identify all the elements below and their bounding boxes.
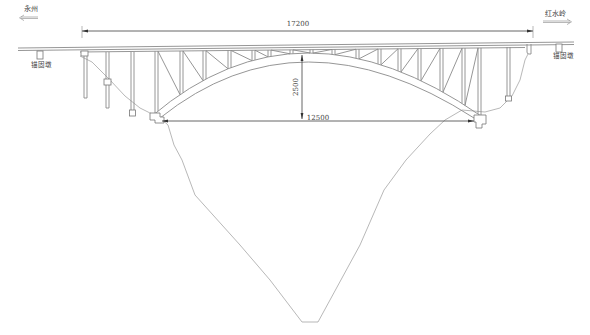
bridge-elevation-drawing: 永州 红水岭 17200 锚固墩 锚固墩 xyxy=(0,0,590,335)
right-anchor-pier-label: 锚固墩 xyxy=(553,51,574,60)
truss-diagonal xyxy=(421,48,440,80)
truss-diagonal xyxy=(206,51,228,69)
truss-diagonal xyxy=(465,48,478,105)
truss-diagonal xyxy=(335,49,356,54)
arch-span-label: 12500 xyxy=(307,114,329,122)
ground-profile xyxy=(80,54,528,322)
arch-span-dimension: 12500 xyxy=(162,114,474,122)
truss-diagonal xyxy=(293,50,310,53)
truss-diagonal xyxy=(231,50,252,60)
left-destination-label: 永州 xyxy=(24,4,38,13)
right-arch-footing xyxy=(474,115,486,128)
truss-diagonal xyxy=(271,50,290,54)
left-anchor-pier: 锚固墩 xyxy=(31,51,52,69)
truss-diagonal xyxy=(183,51,203,81)
right-anchor-pier: 锚固墩 xyxy=(553,44,574,60)
truss-diagonal xyxy=(443,48,462,92)
truss-diagonal xyxy=(255,50,268,57)
left-arch-footing xyxy=(150,113,164,123)
left-anchor-pier-label: 锚固墩 xyxy=(31,60,52,69)
arch-rise-dimension: 2500 xyxy=(292,55,303,119)
left-abutment-cap xyxy=(81,51,88,56)
truss-diagonal xyxy=(158,51,180,94)
arch-rise-label: 2500 xyxy=(292,78,300,96)
right-approach-piers xyxy=(506,47,512,101)
right-direction-arrow-icon xyxy=(543,19,572,25)
spandrel-truss xyxy=(155,48,481,116)
truss-diagonal xyxy=(381,49,398,65)
right-abutment-cap xyxy=(527,44,531,54)
overall-length-dimension: 17200 xyxy=(82,20,533,38)
truss-diagonal xyxy=(401,49,418,72)
overall-length-label: 17200 xyxy=(287,20,309,28)
truss-diagonal xyxy=(359,49,378,59)
left-direction-arrow-icon xyxy=(20,15,39,21)
right-destination-label: 红水岭 xyxy=(545,9,566,18)
